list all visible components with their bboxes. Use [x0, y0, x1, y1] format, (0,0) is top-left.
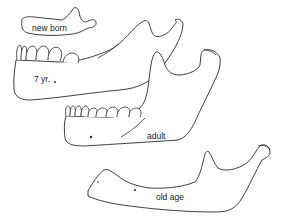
- adult-teeth: [66, 106, 141, 117]
- adult-label: adult: [147, 132, 165, 141]
- newborn-label: new born: [32, 24, 67, 33]
- old-age-label: old age: [156, 193, 184, 202]
- seven-year-label: 7 yr.: [34, 75, 50, 84]
- mandible-drawings: [0, 0, 281, 220]
- mandible-diagram: new born 7 yr. adult old age: [0, 0, 281, 220]
